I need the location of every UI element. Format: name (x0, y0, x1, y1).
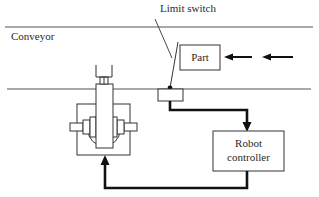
arrowhead-up-icon (101, 155, 110, 165)
motion-arrow-1 (224, 54, 252, 61)
conveyor-label: Conveyor (11, 31, 54, 42)
signal-wire-switch-to-controller (170, 101, 247, 124)
robot-icon (70, 65, 137, 155)
limit-switch-leader (155, 19, 172, 58)
limit-switch-label: Limit switch (160, 3, 216, 14)
controller-label-line1: Robot (213, 138, 284, 149)
controller-label-line2: controller (213, 152, 284, 163)
part-label: Part (180, 52, 220, 63)
limit-switch-lever (170, 42, 178, 88)
motion-arrow-2 (262, 54, 293, 61)
limit-switch-body (158, 89, 183, 101)
